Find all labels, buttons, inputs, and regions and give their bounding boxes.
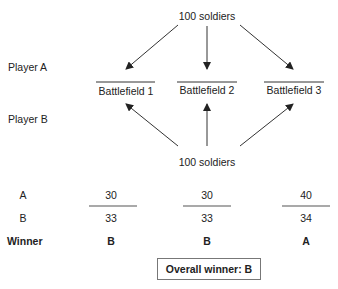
a-value-3: 40 (300, 189, 312, 201)
player-a-label: Player A (8, 61, 47, 73)
overall-winner-text: Overall winner: B (166, 263, 252, 275)
battlefield-1-label: Battlefield 1 (99, 85, 154, 97)
battlefield-2-label: Battlefield 2 (180, 84, 235, 96)
battlefield-3-label: Battlefield 3 (267, 84, 322, 96)
row-b-label: B (19, 212, 26, 224)
top-source-label: 100 soldiers (179, 10, 236, 22)
row-a-label: A (19, 189, 26, 201)
winner-3: A (302, 235, 310, 247)
winner-2: B (203, 235, 211, 247)
a-value-1: 30 (105, 189, 117, 201)
colonel-blotto-diagram: 100 soldiers Player A Player B Battlefie… (0, 0, 338, 289)
b-value-1: 33 (105, 212, 117, 224)
a-value-2: 30 (201, 189, 213, 201)
arrows-and-lines (0, 0, 338, 289)
b-value-3: 34 (300, 212, 312, 224)
winner-1: B (107, 235, 115, 247)
b-value-2: 33 (201, 212, 213, 224)
overall-winner-box: Overall winner: B (157, 258, 261, 280)
player-b-label: Player B (8, 113, 48, 125)
bottom-source-label: 100 soldiers (179, 156, 236, 168)
winner-row-label: Winner (7, 235, 43, 247)
